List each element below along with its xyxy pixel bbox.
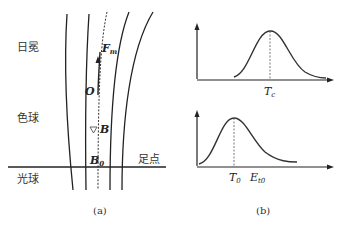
diagram-canvas: 日冕 色球 光球 足点 Fm O B B0 (a) Tc T0 Et0 (b) bbox=[0, 0, 338, 226]
x-axis-arrow-icon bbox=[327, 165, 334, 170]
top-curve bbox=[234, 31, 326, 78]
b-label: B bbox=[99, 123, 109, 136]
t0-label: T0 bbox=[229, 171, 241, 185]
field-line-2 bbox=[86, 14, 89, 190]
caption-a: (a) bbox=[93, 205, 107, 216]
et0-label: Et0 bbox=[249, 171, 266, 185]
origin-label: O bbox=[85, 85, 95, 98]
b0-label: B0 bbox=[89, 154, 104, 168]
caption-b: (b) bbox=[256, 205, 270, 216]
top-chart: Tc bbox=[195, 23, 335, 99]
field-line-1 bbox=[66, 14, 73, 190]
y-axis-arrow-icon bbox=[195, 110, 200, 117]
photosphere-label: 光球 bbox=[17, 172, 39, 186]
bottom-curve bbox=[199, 118, 297, 164]
x-axis-arrow-icon bbox=[327, 78, 334, 83]
field-line-4 bbox=[110, 12, 129, 190]
force-label: Fm bbox=[101, 42, 117, 56]
y-axis-arrow-icon bbox=[195, 23, 200, 30]
down-triangle-marker-icon bbox=[90, 127, 97, 133]
bottom-chart: T0 Et0 bbox=[195, 110, 335, 185]
footpoint-label: 足点 bbox=[138, 153, 160, 166]
tc-label: Tc bbox=[264, 85, 275, 99]
chromosphere-label: 色球 bbox=[17, 111, 39, 125]
corona-label: 日冕 bbox=[17, 41, 39, 54]
